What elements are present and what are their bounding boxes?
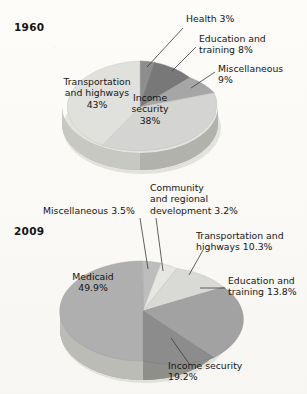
- callout-miscellaneous-2009: Miscellaneous 3.5%: [43, 205, 135, 216]
- callout-education-1960: Education and training 8%: [199, 33, 266, 56]
- leader-line-miscellaneous-2009: [140, 218, 148, 269]
- leader-line-miscellaneous-1960: [191, 72, 215, 88]
- pie-2009-slice-income-security: [143, 311, 214, 364]
- leader-line-education-1960: [172, 47, 196, 71]
- leader-line-transportation-2009: [189, 250, 203, 275]
- year-label-1960: 1960: [14, 21, 44, 33]
- leader-line-community-2009: [156, 218, 163, 271]
- slice-label-medicaid-2009: Medicaid 49.9%: [62, 271, 124, 294]
- callout-income-security-2009: Income security 19.2%: [168, 360, 242, 383]
- year-label-2009: 2009: [14, 225, 44, 237]
- callout-health-1960: Health 3%: [186, 13, 234, 24]
- leader-line-health-1960: [147, 28, 183, 67]
- figure-title: State and Local Gov: [6, 0, 139, 8]
- pie-2009-slice-community: [143, 263, 177, 311]
- slice-label-transportation-1960: Transportation and highways 43%: [55, 76, 139, 110]
- callout-transportation-2009: Transportation and highways 10.3%: [196, 230, 284, 253]
- pie-2009-side-wall-left: [60, 311, 143, 380]
- pie-2009-slice-miscellaneous: [143, 261, 161, 311]
- callout-education-2009: Education and training 13.8%: [228, 275, 297, 298]
- callout-miscellaneous-1960: Miscellaneous 9%: [218, 63, 283, 86]
- pie-2009-slice-transportation: [143, 268, 224, 311]
- callout-community-2009: Community and regional development 3.2%: [150, 182, 238, 216]
